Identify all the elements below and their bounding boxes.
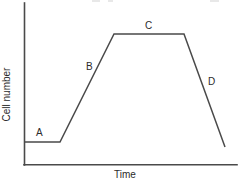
phase-label-d: D <box>208 77 215 87</box>
phase-label-a: A <box>36 128 43 138</box>
phase-label-c: C <box>145 21 152 31</box>
plot-area <box>0 0 238 183</box>
growth-curve-figure: Cell number Time A B C D <box>0 0 238 183</box>
y-axis-label: Cell number <box>0 0 14 183</box>
y-axis-label-text: Cell number <box>2 68 12 122</box>
x-axis-label: Time <box>24 170 226 180</box>
growth-curve-line <box>24 34 225 147</box>
phase-label-b: B <box>86 62 93 72</box>
